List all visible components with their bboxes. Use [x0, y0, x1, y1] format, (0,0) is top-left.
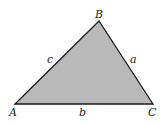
triangle-diagram: B A C c a b [0, 0, 166, 125]
vertex-label-a: A [8, 106, 17, 119]
side-label-c: c [47, 53, 53, 66]
side-label-a: a [130, 53, 137, 66]
vertex-label-c: C [148, 106, 157, 119]
side-label-b: b [79, 106, 86, 119]
vertex-label-b: B [94, 8, 103, 21]
